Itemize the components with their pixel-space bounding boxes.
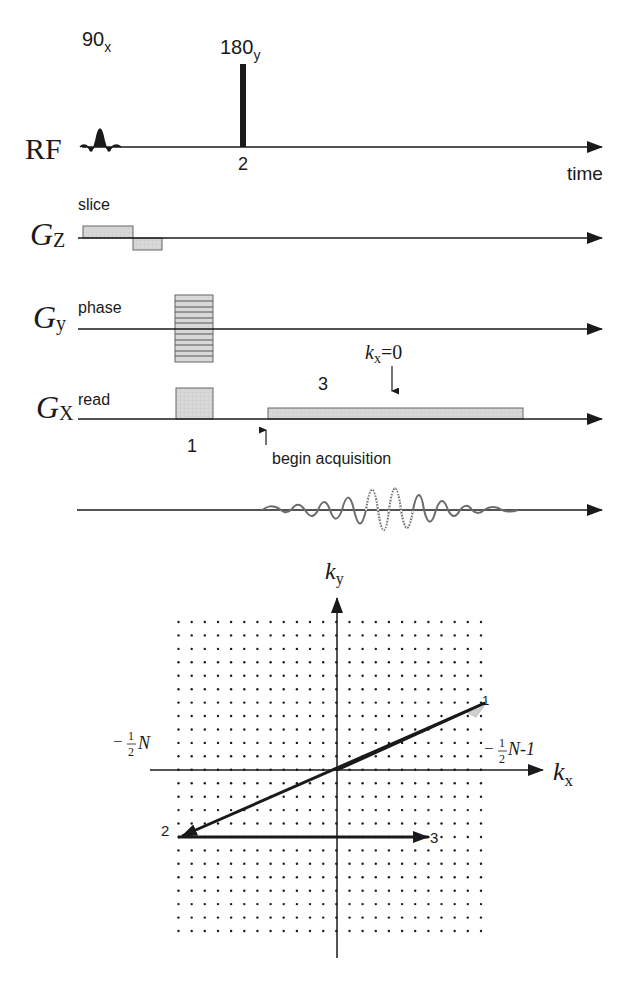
kx-zero-label: kx=0	[365, 341, 402, 366]
kspace-point-1: 1	[482, 693, 489, 708]
kspace-sample-grid	[177, 621, 482, 932]
rf-channel: RF 90x 180y 2 time	[25, 28, 603, 184]
pulse-90-label: 90x	[82, 28, 111, 55]
svg-text:N: N	[137, 733, 151, 753]
pulse-180-label: 180y	[220, 36, 260, 63]
rf-label: RF	[25, 132, 62, 165]
kx-min-label: − 1 2 N	[113, 729, 151, 759]
gx-prephase-lobe	[176, 388, 213, 419]
rf-90-sinc-pulse	[80, 129, 121, 150]
svg-text:2: 2	[499, 752, 505, 766]
gx-role-label: read	[78, 391, 110, 408]
event-label-3: 3	[318, 374, 328, 394]
kspace-point-3: 3	[430, 829, 438, 846]
svg-text:−: −	[484, 739, 494, 758]
svg-text:1: 1	[128, 729, 134, 743]
gz-slice-select-lobe	[83, 226, 133, 238]
event-label-1: 1	[187, 436, 197, 456]
gx-read-channel: GX read 3 1 kx=0 begin acquisition	[36, 341, 602, 467]
svg-text:1: 1	[499, 736, 505, 750]
kx-max-label: − 1 2 N-1	[484, 736, 535, 766]
gx-label: GX	[36, 389, 74, 425]
kx-axis-label: kx	[553, 757, 574, 790]
mri-pulse-sequence-diagram: RF 90x 180y 2 time GZ slice Gy phase	[0, 0, 625, 986]
time-axis-label: time	[567, 163, 603, 184]
signal-channel	[77, 488, 602, 530]
svg-text:−: −	[113, 732, 123, 751]
gy-phase-channel: Gy phase	[33, 295, 602, 362]
begin-acquisition-label: begin acquisition	[272, 450, 391, 467]
kspace-point-2: 2	[161, 822, 169, 839]
svg-text:N-1: N-1	[507, 739, 535, 759]
gy-label: Gy	[33, 299, 66, 335]
gy-role-label: phase	[78, 299, 122, 316]
event-label-2: 2	[238, 154, 248, 174]
gx-readout-lobe	[268, 408, 523, 419]
rf-180-pulse	[240, 64, 246, 147]
kspace-diagram: ky kx − 1 2 N − 1 2 N-1 1 2 3	[113, 558, 574, 958]
gz-slice-channel: GZ slice	[30, 196, 602, 252]
gz-role-label: slice	[78, 196, 110, 213]
ky-axis-label: ky	[325, 558, 344, 588]
svg-text:2: 2	[128, 745, 134, 759]
gz-rephase-lobe	[133, 238, 162, 250]
gz-label: GZ	[30, 216, 65, 252]
